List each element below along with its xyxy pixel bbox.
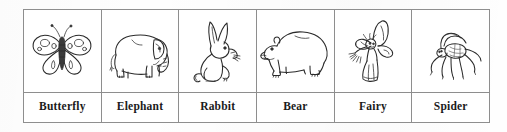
- word-label: Bear: [283, 101, 307, 113]
- picture-cell-elephant[interactable]: [102, 10, 180, 92]
- word-label: Fairy: [359, 101, 387, 113]
- picture-cell-fairy[interactable]: [335, 10, 413, 92]
- butterfly-icon: [26, 20, 98, 82]
- picture-cell-bear[interactable]: [257, 10, 335, 92]
- picture-cell-rabbit[interactable]: [179, 10, 257, 92]
- label-cell-bear[interactable]: Bear: [257, 93, 335, 122]
- bear-icon: [257, 22, 335, 80]
- spider-icon: [414, 22, 488, 80]
- word-label: Spider: [434, 101, 468, 113]
- word-label: Elephant: [117, 101, 163, 113]
- picture-cell-spider[interactable]: [412, 10, 489, 92]
- elephant-icon: [102, 21, 178, 81]
- picture-word-table: Butterfly Elephant Rabbit Bear Fairy Spi…: [23, 9, 490, 123]
- label-row: Butterfly Elephant Rabbit Bear Fairy Spi…: [24, 92, 489, 122]
- rabbit-icon: [187, 16, 249, 86]
- word-label: Butterfly: [39, 101, 86, 113]
- label-cell-fairy[interactable]: Fairy: [335, 93, 413, 122]
- label-cell-rabbit[interactable]: Rabbit: [179, 93, 257, 122]
- picture-row: [24, 10, 489, 92]
- word-label: Rabbit: [200, 101, 235, 113]
- worksheet-page: Butterfly Elephant Rabbit Bear Fairy Spi…: [0, 0, 507, 132]
- label-cell-spider[interactable]: Spider: [412, 93, 489, 122]
- label-cell-butterfly[interactable]: Butterfly: [24, 93, 102, 122]
- picture-cell-butterfly[interactable]: [24, 10, 102, 92]
- label-cell-elephant[interactable]: Elephant: [102, 93, 180, 122]
- fairy-icon: [343, 17, 403, 85]
